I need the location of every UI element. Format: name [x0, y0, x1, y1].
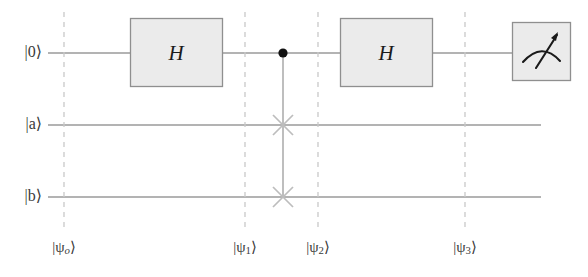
state-label-psi-2-open: |ψ [306, 239, 318, 255]
qubit-label-register-b-text: |b⟩ [25, 187, 42, 204]
measurement-gate[interactable] [513, 23, 571, 81]
control-dot-icon [278, 48, 287, 57]
state-label-psi-1: |ψ1⟩ [205, 238, 285, 256]
state-label-psi-3: |ψ3⟩ [425, 238, 505, 256]
state-label-psi-3-close: ⟩ [471, 239, 477, 255]
state-label-psi-0-open: |ψ [52, 239, 64, 255]
hadamard-gate-2-label: H [340, 41, 432, 66]
qubit-label-register-b: |b⟩ [8, 186, 42, 205]
state-label-psi-3-open: |ψ [453, 239, 465, 255]
qubit-label-register-a: |a⟩ [8, 114, 42, 133]
state-label-psi-0-close: ⟩ [70, 239, 76, 255]
qubit-label-control-text: |0⟩ [25, 43, 42, 60]
qubit-label-register-a-text: |a⟩ [25, 115, 42, 132]
hadamard-gate-1-label: H [130, 41, 222, 66]
state-label-psi-2-close: ⟩ [324, 239, 330, 255]
wire-group [48, 53, 541, 197]
state-label-psi-1-close: ⟩ [251, 239, 257, 255]
state-label-psi-2: |ψ2⟩ [278, 238, 358, 256]
quantum-circuit-diagram: |0⟩ |a⟩ |b⟩ H H |ψo⟩ |ψ1⟩ |ψ2⟩ |ψ3⟩ [0, 0, 588, 277]
qubit-label-control: |0⟩ [8, 42, 42, 61]
controlled-swap-gate[interactable] [273, 48, 293, 207]
circuit-canvas [0, 0, 588, 277]
state-label-psi-0: |ψo⟩ [24, 238, 104, 256]
state-label-psi-1-open: |ψ [233, 239, 245, 255]
